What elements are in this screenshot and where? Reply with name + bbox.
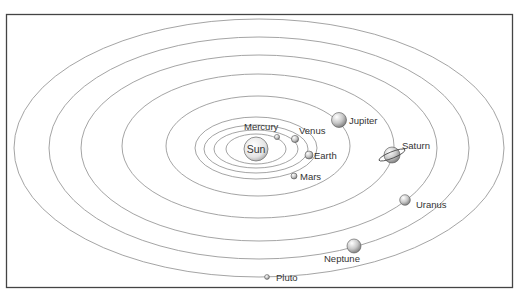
sun: Sun xyxy=(244,137,268,161)
planet-label-pluto: Pluto xyxy=(276,272,298,283)
planet-label-neptune: Neptune xyxy=(324,253,360,264)
planet-label-mercury: Mercury xyxy=(244,121,279,132)
planet-label-saturn: Saturn xyxy=(402,140,430,151)
planet-jupiter: Jupiter xyxy=(332,113,378,128)
sun-label: Sun xyxy=(247,143,266,155)
planet-label-jupiter: Jupiter xyxy=(349,115,378,126)
planet-label-earth: Earth xyxy=(314,150,337,161)
solar-system-diagram: Sun Mercury Venus Earth Mars Jupiter Sat… xyxy=(0,0,517,296)
planet-label-mars: Mars xyxy=(300,171,321,182)
planet-label-uranus: Uranus xyxy=(416,199,447,210)
planet-label-venus: Venus xyxy=(299,125,326,136)
